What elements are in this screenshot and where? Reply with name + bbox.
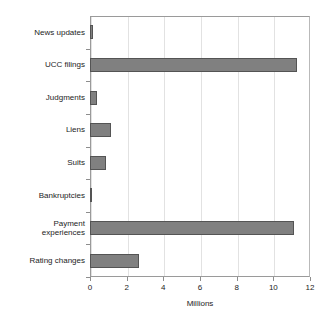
bar-chart: News updatesUCC filingsJudgmentsLiensSui… bbox=[0, 0, 330, 322]
bar bbox=[90, 188, 92, 202]
bar bbox=[90, 123, 111, 137]
y-axis-tick-label: Payment experiences bbox=[0, 219, 85, 238]
x-axis-tick-label: 12 bbox=[295, 283, 325, 293]
y-axis-tick-label: Bankruptcies bbox=[0, 191, 85, 201]
x-axis-tick bbox=[273, 277, 274, 281]
x-axis-tick-label: 6 bbox=[185, 283, 215, 293]
bar bbox=[90, 58, 297, 72]
y-axis-tick-label: Judgments bbox=[0, 93, 85, 103]
x-axis-tick-label: 2 bbox=[112, 283, 142, 293]
bar bbox=[90, 25, 93, 39]
bars-layer bbox=[90, 16, 310, 277]
bar bbox=[90, 221, 294, 235]
bar bbox=[90, 156, 106, 170]
bar bbox=[90, 91, 97, 105]
x-axis-tick-label: 8 bbox=[222, 283, 252, 293]
y-axis-tick-label: Liens bbox=[0, 125, 85, 135]
y-axis-tick bbox=[86, 244, 90, 245]
x-axis-tick bbox=[310, 277, 311, 281]
x-axis-tick bbox=[237, 277, 238, 281]
y-axis-tick bbox=[86, 81, 90, 82]
x-axis-tick bbox=[163, 277, 164, 281]
x-axis-title: Millions bbox=[90, 299, 310, 309]
y-axis-tick bbox=[86, 147, 90, 148]
y-axis-tick bbox=[86, 179, 90, 180]
y-axis-tick bbox=[86, 49, 90, 50]
x-axis-tick bbox=[90, 277, 91, 281]
bar bbox=[90, 254, 139, 268]
x-axis-tick bbox=[200, 277, 201, 281]
x-axis-tick-label: 4 bbox=[148, 283, 178, 293]
y-axis-tick bbox=[86, 212, 90, 213]
x-axis-tick-label: 0 bbox=[75, 283, 105, 293]
x-axis-tick bbox=[127, 277, 128, 281]
x-axis-tick-label: 10 bbox=[258, 283, 288, 293]
y-axis-tick bbox=[86, 114, 90, 115]
y-axis-tick-label: UCC filings bbox=[0, 60, 85, 70]
y-axis-labels: News updatesUCC filingsJudgmentsLiensSui… bbox=[0, 16, 85, 277]
y-axis-tick-label: Suits bbox=[0, 158, 85, 168]
y-axis-tick-label: News updates bbox=[0, 28, 85, 38]
y-axis-tick-label: Rating changes bbox=[0, 256, 85, 266]
